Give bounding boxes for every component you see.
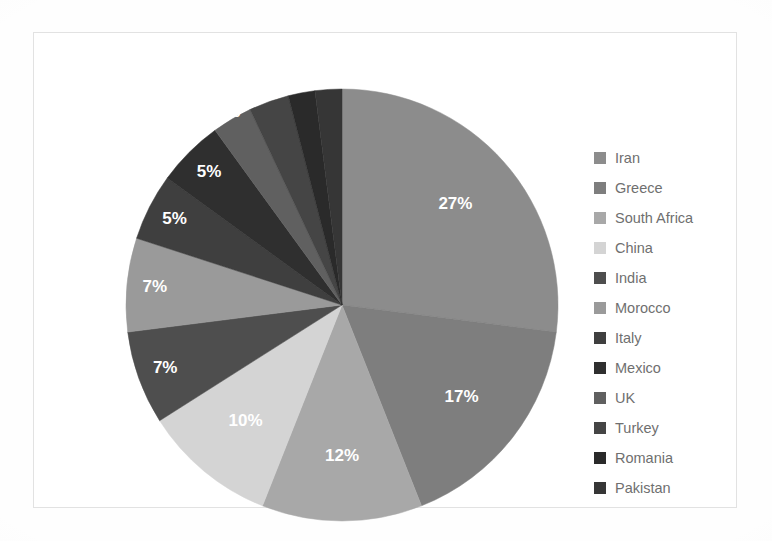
legend-item[interactable]: Morocco [594,293,770,323]
legend-item[interactable]: Greece [594,173,770,203]
legend-item[interactable]: UK [594,383,770,413]
legend-item[interactable]: Romania [594,443,770,473]
legend-item[interactable]: China [594,233,770,263]
pie-slice-value-label: 17% [444,387,478,406]
pie-slice-value-label: 2% [288,85,313,94]
legend-item-label: Turkey [615,421,659,436]
pie-slice-value-label: 12% [325,446,359,465]
pie-slice-value-label: 5% [197,162,222,181]
legend-swatch-icon [594,242,606,254]
legend-swatch-icon [594,212,606,224]
legend-swatch-icon [594,272,606,284]
pie-slice-value-label: 7% [153,358,178,377]
legend-item-label: Romania [615,451,673,466]
legend-swatch-icon [594,482,606,494]
legend-item-label: Pakistan [615,481,671,496]
chart-legend: IranGreeceSouth AfricaChinaIndiaMoroccoI… [594,143,770,503]
legend-swatch-icon [594,362,606,374]
legend-swatch-icon [594,392,606,404]
legend-swatch-icon [594,152,606,164]
chart-plot-frame: 27%17%12%10%7%7%5%5%3%3%2%2% IranGreeceS… [33,32,737,508]
legend-item[interactable]: Pakistan [594,473,770,503]
pie-area: 27%17%12%10%7%7%5%5%3%3%2%2% [124,85,564,525]
legend-swatch-icon [594,302,606,314]
legend-item-label: South Africa [615,211,693,226]
legend-item[interactable]: India [594,263,770,293]
legend-item[interactable]: Turkey [594,413,770,443]
legend-item-label: India [615,271,646,286]
pie-slice-value-label: 3% [254,85,279,103]
legend-item[interactable]: Iran [594,143,770,173]
pie-slice-value-label: 27% [438,194,472,213]
pie-slice-value-label: 3% [216,102,241,121]
legend-item-label: UK [615,391,635,406]
legend-item-label: Mexico [615,361,661,376]
legend-swatch-icon [594,182,606,194]
legend-item[interactable]: South Africa [594,203,770,233]
legend-item[interactable]: Italy [594,323,770,353]
legend-swatch-icon [594,422,606,434]
legend-swatch-icon [594,452,606,464]
pie-slice-value-label: 2% [316,85,341,90]
pie-slice-value-label: 7% [143,277,168,296]
pie-svg: 27%17%12%10%7%7%5%5%3%3%2%2% [124,85,564,525]
legend-item-label: China [615,241,653,256]
legend-item-label: Morocco [615,301,671,316]
pie-slice-value-label: 10% [229,411,263,430]
legend-swatch-icon [594,332,606,344]
pie-slice-value-label: 5% [162,209,187,228]
legend-item[interactable]: Mexico [594,353,770,383]
legend-item-label: Iran [615,151,640,166]
legend-item-label: Greece [615,181,663,196]
pie-chart-figure: 27%17%12%10%7%7%5%5%3%3%2%2% IranGreeceS… [0,0,772,541]
legend-item-label: Italy [615,331,642,346]
